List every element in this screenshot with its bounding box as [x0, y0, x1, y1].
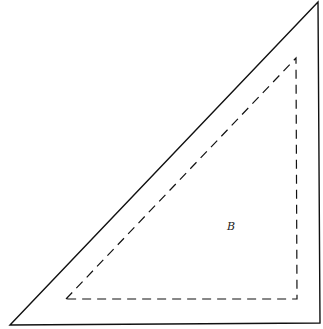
outer-triangle	[10, 2, 320, 325]
region-label-b: B	[227, 220, 235, 233]
triangle-diagram	[0, 0, 323, 329]
inner-dashed-triangle	[66, 58, 297, 299]
